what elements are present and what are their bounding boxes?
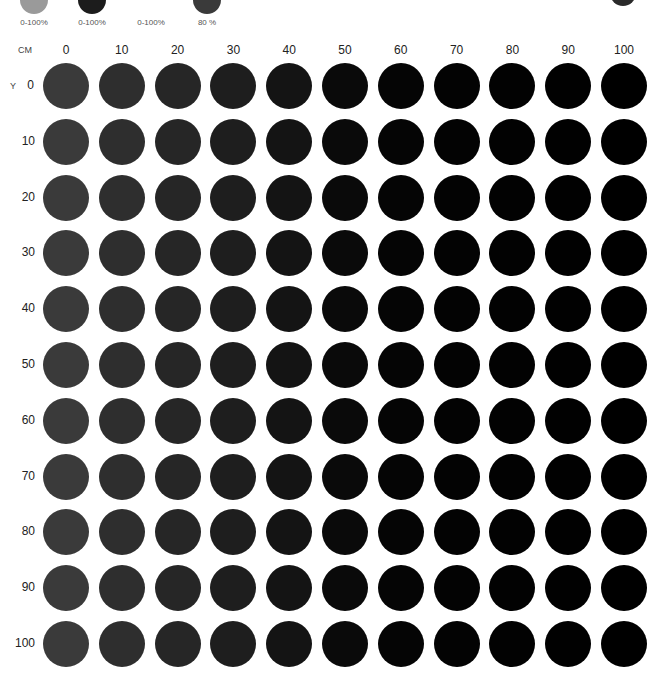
dot-cell [601,509,647,555]
dot-cell [210,286,256,332]
dot-cell [601,230,647,276]
x-tick-label: 10 [102,43,142,57]
legend-swatch-4 [193,0,221,14]
dot-cell [378,342,424,388]
dot-cell [210,230,256,276]
dot-cell [322,63,368,109]
dot-cell [378,398,424,444]
dot-cell [322,286,368,332]
dot-cell [322,342,368,388]
dot-cell [434,398,480,444]
dot-cell [155,509,201,555]
dot-cell [155,63,201,109]
dot-cell [99,342,145,388]
dot-cell [210,621,256,667]
dot-cell [322,509,368,555]
dot-cell [210,342,256,388]
x-tick-label: 0 [46,43,86,57]
x-tick-label: 20 [158,43,198,57]
dot-cell [266,398,312,444]
dot-cell [266,509,312,555]
dot-cell [210,119,256,165]
y-tick-label: 40 [5,301,35,315]
dot-cell [434,509,480,555]
dot-cell [601,565,647,611]
dot-cell [378,230,424,276]
x-tick-label: 80 [492,43,532,57]
x-tick-label: 70 [437,43,477,57]
dot-cell [43,63,89,109]
x-tick-label: 30 [213,43,253,57]
x-axis-title: CM [18,45,32,55]
dot-cell [266,621,312,667]
dot-cell [155,119,201,165]
dot-cell [266,286,312,332]
y-tick-label: 0 [4,78,34,92]
dot-cell [43,119,89,165]
dot-cell [378,454,424,500]
legend-label-4: 80 % [177,18,237,27]
dot-cell [155,565,201,611]
x-tick-label: 60 [381,43,421,57]
x-tick-label: 90 [548,43,588,57]
dot-cell [489,63,535,109]
dot-cell [378,119,424,165]
dot-cell [266,175,312,221]
dot-cell [601,63,647,109]
dot-cell [322,454,368,500]
dot-cell [434,63,480,109]
dot-cell [266,565,312,611]
legend-label-3: 0-100% [121,18,181,27]
dot-cell [601,454,647,500]
dot-cell [434,454,480,500]
dot-cell [155,230,201,276]
dot-cell [489,621,535,667]
dot-cell [434,286,480,332]
dot-cell [155,342,201,388]
dot-cell [322,230,368,276]
dot-cell [99,454,145,500]
dot-cell [155,175,201,221]
x-tick-label: 50 [325,43,365,57]
dot-cell [545,286,591,332]
dot-cell [43,509,89,555]
dot-cell [99,509,145,555]
dot-cell [545,454,591,500]
dot-cell [99,286,145,332]
dot-cell [601,621,647,667]
dot-cell [266,63,312,109]
dot-cell [99,398,145,444]
dot-cell [99,63,145,109]
y-tick-label: 60 [5,413,35,427]
dot-cell [545,565,591,611]
dot-cell [43,621,89,667]
dot-cell [266,342,312,388]
dot-cell [43,565,89,611]
dot-cell [210,175,256,221]
dot-cell [489,286,535,332]
dot-cell [545,509,591,555]
dot-cell [210,565,256,611]
dot-cell [545,621,591,667]
dot-cell [99,230,145,276]
dot-cell [43,398,89,444]
dot-cell [210,509,256,555]
dot-cell [43,286,89,332]
dot-cell [210,454,256,500]
dot-cell [434,565,480,611]
dot-cell [266,230,312,276]
dot-cell [43,454,89,500]
dot-cell [545,230,591,276]
dot-cell [99,119,145,165]
dot-cell [489,509,535,555]
y-tick-label: 50 [5,357,35,371]
dot-cell [99,621,145,667]
dot-cell [210,398,256,444]
dot-cell [434,119,480,165]
dot-cell [601,286,647,332]
y-tick-label: 100 [5,636,35,650]
dot-cell [99,175,145,221]
dot-cell [322,621,368,667]
dot-cell [266,119,312,165]
dot-cell [43,342,89,388]
